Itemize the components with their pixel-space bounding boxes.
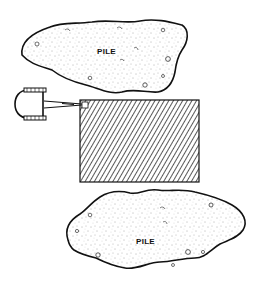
top-pile-label: PILE — [97, 47, 116, 56]
top-pile — [22, 20, 187, 93]
bottom-pile-label: PILE — [136, 237, 155, 246]
loader-machine — [15, 88, 82, 120]
bottom-pile — [67, 190, 245, 269]
diagram-canvas — [0, 0, 257, 287]
hatched-work-area — [80, 100, 199, 182]
